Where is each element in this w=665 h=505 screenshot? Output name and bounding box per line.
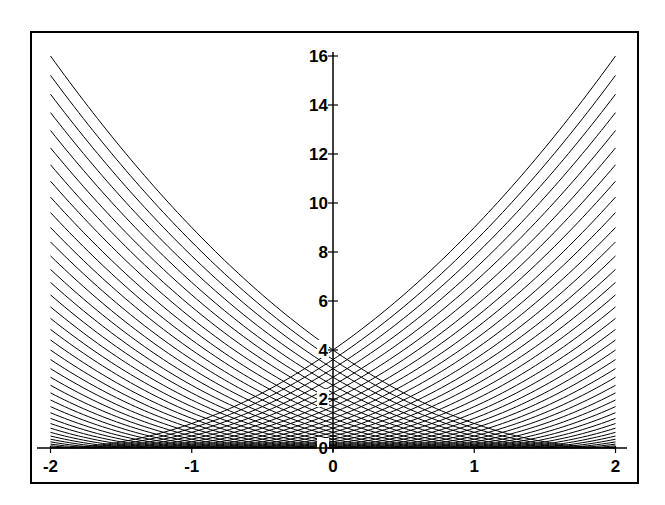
x-tick-label: -2	[43, 457, 58, 476]
y-tick-label: 2	[319, 390, 328, 409]
x-tick-label: 1	[470, 457, 479, 476]
y-tick-label: 12	[309, 145, 328, 164]
x-tick-label: 2	[611, 457, 620, 476]
y-tick-label: 4	[319, 341, 329, 360]
y-tick-label: 6	[319, 292, 328, 311]
y-tick-label: 16	[309, 47, 328, 66]
x-tick-label: -1	[184, 457, 199, 476]
y-tick-label: 10	[309, 194, 328, 213]
y-tick-label: 8	[319, 243, 328, 262]
y-tick-label: 0	[319, 439, 328, 458]
y-tick-label: 14	[309, 96, 328, 115]
chart: -2-1012 0246810121416	[0, 0, 665, 505]
x-tick-label: 0	[328, 457, 337, 476]
